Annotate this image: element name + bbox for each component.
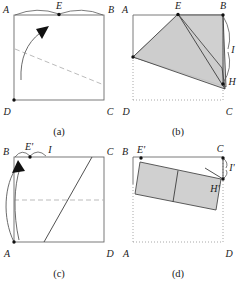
panel-c-label-D: D <box>105 248 114 259</box>
panel-c-arc-left <box>15 152 30 157</box>
panel-a-motion-arc <box>21 33 40 80</box>
panel-d-label-B: B <box>122 146 128 157</box>
panel-c-motion-arc-inner <box>15 168 20 240</box>
panel-d-vertex-C-dot <box>221 156 224 159</box>
panel-c-diagonal-line <box>44 157 92 242</box>
panel-a-arrowhead <box>36 26 49 39</box>
panel-d-label-A: A <box>122 248 130 259</box>
panel-d-label-Eprime: E' <box>136 144 146 155</box>
panel-b-label-C: C <box>226 106 233 117</box>
panel-b-vertex-left-dot <box>131 55 134 58</box>
panel-c-vertex-A-dot <box>12 240 15 243</box>
panel-d-vertex-Hprime-dot <box>221 177 224 180</box>
panel-b-label-A: A <box>121 4 129 15</box>
panel-d-label-D: D <box>224 248 233 259</box>
panel-c: B E' C A D I (c) <box>0 142 119 284</box>
panel-d: B E' C H' A D I' (d) <box>119 142 238 284</box>
panel-b-vertex-B-dot <box>221 13 224 16</box>
panel-d-label-C: C <box>217 143 224 154</box>
panel-a: A E B D C (a) <box>0 0 119 142</box>
panel-a-arc-ae <box>15 10 59 15</box>
panel-c-label-Eprime: E' <box>24 142 34 152</box>
panel-a-label-B: B <box>108 4 114 15</box>
panel-a-label-D: D <box>2 106 11 117</box>
panel-a-vertex-D-dot <box>12 98 15 101</box>
panel-c-label-A: A <box>3 248 11 259</box>
panel-a-vertex-E-dot <box>57 13 60 16</box>
panel-c-arc-right <box>30 152 46 156</box>
panel-d-label-Iprime: I' <box>228 162 235 173</box>
panel-a-label-C: C <box>107 106 114 117</box>
panel-c-caption: (c) <box>53 268 65 280</box>
panel-b: A E B H D C I (b) <box>119 0 238 142</box>
panel-d-folded-band <box>135 162 221 210</box>
panel-c-label-B: B <box>3 146 9 157</box>
panel-b-vertex-H-dot <box>221 82 224 85</box>
panel-b-label-B: B <box>220 0 226 11</box>
panel-d-vertex-Eprime-dot <box>139 156 142 159</box>
panel-b-label-E: E <box>174 0 181 11</box>
panel-c-label-C: C <box>107 146 114 157</box>
panel-b-label-I: I <box>230 44 235 55</box>
panel-c-vertex-Eprime-dot <box>28 155 31 158</box>
panel-d-label-Hprime: H' <box>209 183 220 194</box>
panel-c-label-I: I <box>47 144 52 155</box>
panel-a-arc-eb <box>59 10 103 15</box>
panel-a-rectangle <box>14 15 104 100</box>
panel-a-label-A: A <box>2 4 10 15</box>
panel-b-label-H: H <box>227 76 236 87</box>
panel-b-caption: (b) <box>172 126 185 138</box>
panel-a-label-E: E <box>55 0 62 11</box>
panel-b-vertex-E-dot <box>176 13 179 16</box>
figure-root: A E B D C (a) A E B H D <box>0 0 238 284</box>
panel-b-label-D: D <box>121 106 130 117</box>
panel-c-rectangle <box>14 157 104 242</box>
panel-a-caption: (a) <box>53 126 65 138</box>
panel-a-crease-dashed <box>15 49 104 85</box>
panel-d-caption: (d) <box>172 268 185 280</box>
